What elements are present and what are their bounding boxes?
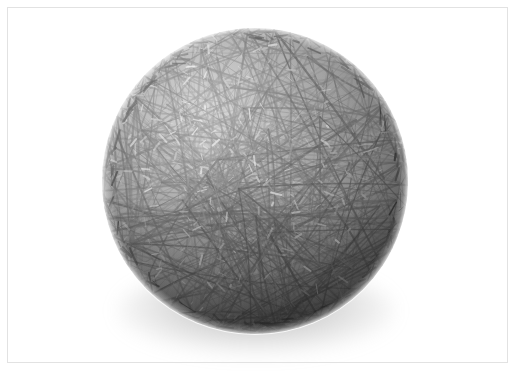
image-canvas [0, 0, 517, 372]
sphere-graphic [0, 0, 517, 372]
string-sphere-artwork [0, 0, 517, 372]
sphere-edge-softener [101, 27, 409, 335]
